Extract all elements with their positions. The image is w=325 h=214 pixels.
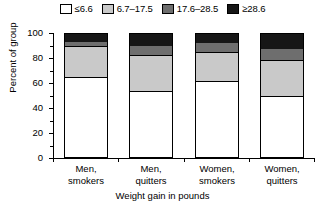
chart-legend: ≤6.6 6.7–17.5 17.6–28.5 ≥28.6 xyxy=(0,4,325,14)
x-group-label-women-quitters-line2: quitters xyxy=(242,175,322,187)
legend-label-highest: ≥28.6 xyxy=(242,4,265,14)
x-tick-2 xyxy=(184,158,185,162)
y-tick-100: 100 xyxy=(49,33,53,34)
y-tick-40: 40 xyxy=(49,108,53,109)
segment-highest-men-quitters xyxy=(129,33,173,46)
bar-women-smokers xyxy=(195,33,239,158)
y-axis-title: Percent of group xyxy=(7,0,18,118)
x-group-label-women-quitters-line1: Women, xyxy=(242,163,322,175)
y-tick-label-20: 20 xyxy=(32,127,43,138)
x-axis-title: Weight gain in pounds xyxy=(0,190,325,201)
segment-highest-women-quitters xyxy=(260,33,304,49)
segment-low-mid-women-quitters xyxy=(260,61,304,97)
stacked-bar-chart: ≤6.6 6.7–17.5 17.6–28.5 ≥28.6 Percent of… xyxy=(0,0,325,214)
y-tick-80: 80 xyxy=(49,58,53,59)
legend-swatch-lowest xyxy=(60,4,72,14)
segment-lowest-men-smokers xyxy=(64,78,108,158)
legend-label-low-mid: 6.7–17.5 xyxy=(117,4,153,14)
x-tick-0 xyxy=(53,158,54,162)
y-tick-label-60: 60 xyxy=(32,77,43,88)
legend-item-1: 6.7–17.5 xyxy=(102,4,153,14)
bar-men-quitters xyxy=(129,33,173,158)
y-tick-label-80: 80 xyxy=(32,52,43,63)
bar-men-smokers xyxy=(64,33,108,158)
y-tick-label-100: 100 xyxy=(27,27,43,38)
legend-swatch-highest xyxy=(227,4,239,14)
bar-women-quitters xyxy=(260,33,304,158)
segment-high-mid-women-smokers xyxy=(195,43,239,53)
x-group-label-women-quitters: Women, quitters xyxy=(242,163,322,186)
y-tick-minor-90 xyxy=(50,46,53,47)
y-tick-minor-50 xyxy=(50,96,53,97)
y-tick-60: 60 xyxy=(49,83,53,84)
segment-lowest-men-quitters xyxy=(129,92,173,158)
y-tick-label-40: 40 xyxy=(32,102,43,113)
legend-swatch-low-mid xyxy=(102,4,114,14)
legend-item-0: ≤6.6 xyxy=(60,4,93,14)
segment-low-mid-women-smokers xyxy=(195,53,239,82)
segment-low-mid-men-smokers xyxy=(64,47,108,78)
segment-lowest-women-smokers xyxy=(195,82,239,158)
x-tick-3 xyxy=(249,158,250,162)
y-tick-label-0: 0 xyxy=(38,152,43,163)
legend-label-lowest: ≤6.6 xyxy=(75,4,93,14)
x-tick-1 xyxy=(118,158,119,162)
legend-item-2: 17.6–28.5 xyxy=(162,4,218,14)
plot-area: 100 80 60 40 20 0 xyxy=(53,33,315,158)
segment-low-mid-men-quitters xyxy=(129,56,173,92)
segment-high-mid-women-quitters xyxy=(260,49,304,60)
y-tick-minor-10 xyxy=(50,146,53,147)
y-axis-line xyxy=(53,33,54,159)
legend-label-high-mid: 17.6–28.5 xyxy=(177,4,218,14)
y-tick-minor-30 xyxy=(50,121,53,122)
legend-item-3: ≥28.6 xyxy=(227,4,265,14)
segment-lowest-women-quitters xyxy=(260,97,304,158)
y-tick-20: 20 xyxy=(49,133,53,134)
segment-highest-women-smokers xyxy=(195,33,239,43)
segment-high-mid-men-quitters xyxy=(129,46,173,56)
x-tick-4 xyxy=(314,158,315,162)
y-tick-minor-70 xyxy=(50,71,53,72)
legend-swatch-high-mid xyxy=(162,4,174,14)
segment-highest-men-smokers xyxy=(64,33,108,42)
